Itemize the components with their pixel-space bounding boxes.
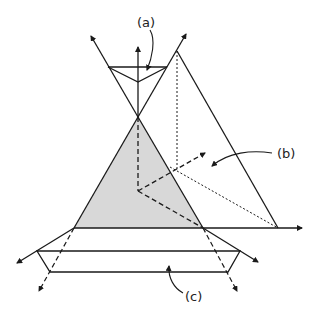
label-c: (c) xyxy=(185,289,202,304)
bottom-section xyxy=(37,251,240,272)
cone-generator-right-upper xyxy=(138,34,186,117)
lower-axis-left xyxy=(17,228,74,263)
side-projection-solid xyxy=(177,51,278,228)
diagram: (a) (b) (c) xyxy=(0,0,316,317)
cone-generator-left-upper xyxy=(91,36,138,117)
lower-axis-right xyxy=(203,228,258,262)
label-b: (b) xyxy=(277,146,295,161)
lower-dashed-right xyxy=(203,228,237,291)
leader-a xyxy=(147,30,153,70)
label-a: (a) xyxy=(137,15,155,30)
leader-c xyxy=(169,266,183,293)
lower-dashed-left xyxy=(39,228,74,291)
